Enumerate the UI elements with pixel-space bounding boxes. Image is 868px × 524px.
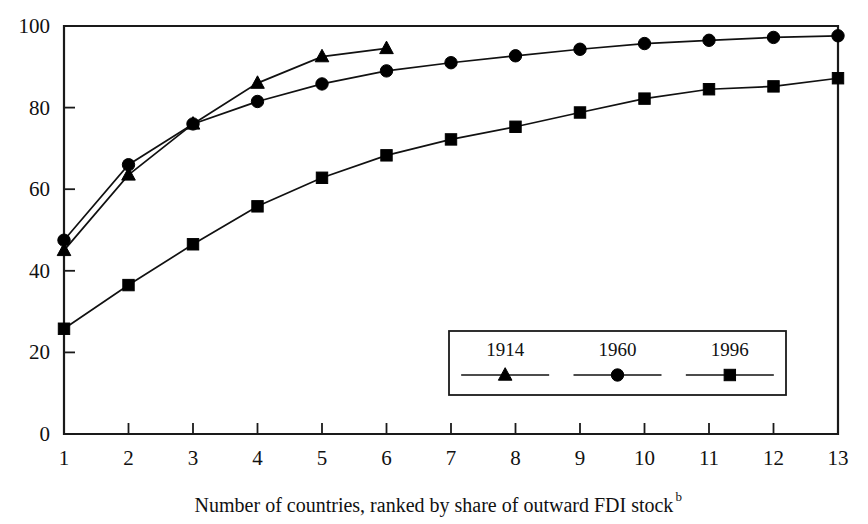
square-marker: [123, 279, 134, 290]
square-marker: [768, 81, 779, 92]
circle-marker: [251, 95, 263, 107]
x-axis-title-superscript: b: [675, 489, 682, 504]
triangle-marker: [380, 41, 394, 54]
y-tick-label: 80: [29, 96, 50, 120]
circle-marker: [58, 234, 70, 246]
data-series-layer: [57, 30, 844, 335]
x-axis-tick-labels: 12345678910111213: [59, 446, 849, 470]
legend-entry-label: 1996: [711, 339, 749, 360]
chart-canvas: 020406080100 12345678910111213 191419601…: [0, 0, 868, 524]
x-tick-label: 8: [510, 446, 521, 470]
square-marker: [252, 201, 263, 212]
square-marker: [445, 134, 456, 145]
chart-figure: 020406080100 12345678910111213 191419601…: [0, 0, 868, 524]
x-tick-label: 4: [252, 446, 263, 470]
chart-legend: 191419601996: [449, 331, 786, 395]
square-marker: [703, 84, 714, 95]
series-markers-1914: [57, 41, 393, 255]
square-marker: [381, 150, 392, 161]
circle-marker: [445, 57, 457, 69]
circle-marker: [574, 43, 586, 55]
square-marker: [639, 93, 650, 104]
x-tick-label: 12: [763, 446, 784, 470]
x-tick-label: 1: [59, 446, 70, 470]
circle-marker: [187, 118, 199, 130]
x-tick-label: 9: [575, 446, 586, 470]
circle-marker: [380, 65, 392, 77]
x-tick-label: 10: [634, 446, 655, 470]
x-tick-label: 7: [446, 446, 457, 470]
square-marker: [574, 107, 585, 118]
y-tick-label: 0: [40, 422, 51, 446]
circle-marker: [703, 34, 715, 46]
circle-marker: [767, 31, 779, 43]
y-tick-label: 100: [19, 14, 51, 38]
x-tick-label: 5: [317, 446, 328, 470]
square-marker: [187, 239, 198, 250]
series-line-1996: [64, 78, 838, 329]
square-marker: [316, 172, 327, 183]
square-marker: [58, 323, 69, 334]
circle-marker: [509, 50, 521, 62]
y-tick-label: 40: [29, 259, 50, 283]
circle-marker: [122, 159, 134, 171]
legend-entry-label: 1960: [599, 339, 637, 360]
square-marker: [832, 73, 843, 84]
x-tick-label: 6: [381, 446, 392, 470]
series-1996: [58, 73, 843, 335]
y-axis-tick-labels: 020406080100: [19, 14, 51, 446]
x-tick-label: 13: [828, 446, 849, 470]
x-axis-title-group: Number of countries, ranked by share of …: [195, 489, 682, 517]
square-marker: [510, 121, 521, 132]
y-tick-label: 60: [29, 177, 50, 201]
x-tick-label: 11: [699, 446, 719, 470]
x-axis-ticks: [129, 423, 774, 434]
y-tick-label: 20: [29, 340, 50, 364]
circle-marker: [832, 30, 844, 42]
circle-marker: [638, 37, 650, 49]
x-axis-title: Number of countries, ranked by share of …: [195, 494, 674, 517]
x-tick-label: 2: [123, 446, 134, 470]
legend-entry-label: 1914: [486, 339, 525, 360]
x-tick-label: 3: [188, 446, 199, 470]
square-marker: [724, 369, 735, 380]
circle-marker: [611, 369, 623, 381]
series-line-1914: [64, 48, 387, 250]
series-markers-1996: [58, 73, 843, 335]
series-1914: [57, 41, 393, 255]
circle-marker: [316, 78, 328, 90]
